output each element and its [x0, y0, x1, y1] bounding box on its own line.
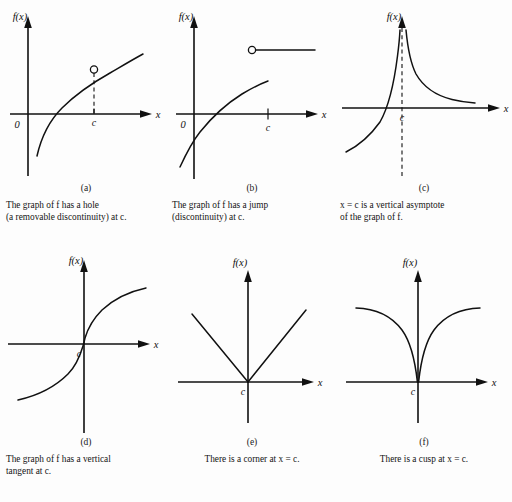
panel-letter-b: (b)	[172, 184, 332, 194]
panel-caption-d: The graph of f has a vertical tangent at…	[6, 453, 166, 478]
panel-b: f(x) 0 c x (b) The graph of f has a jump…	[172, 4, 332, 223]
panel-d: f(x) c x (d) The graph of f has a vertic…	[6, 248, 166, 477]
panel-f: f(x) c x (f) There is a cusp at x = c.	[340, 248, 508, 465]
x-axis-label: x	[153, 339, 159, 350]
c-label: c	[241, 386, 246, 397]
graph-a-removable-discontinuity: f(x) 0 c x	[6, 4, 166, 182]
graph-c-vertical-asymptote: f(x) c x	[340, 4, 508, 182]
panel-caption-b: The graph of f has a jump (discontinuity…	[172, 199, 332, 224]
x-axis-arrowhead	[488, 104, 500, 112]
y-axis-label: f(x)	[387, 11, 402, 23]
x-axis-label: x	[155, 109, 161, 120]
function-curve-right-branch	[419, 308, 480, 382]
function-curve-left-branch	[180, 81, 268, 167]
c-label: c	[92, 117, 97, 128]
function-ray-left	[192, 314, 248, 382]
panel-letter-f: (f)	[340, 438, 508, 448]
panel-letter-d: (d)	[6, 438, 166, 448]
c-label: c	[266, 122, 271, 133]
y-axis-label: f(x)	[69, 255, 84, 267]
panel-c: f(x) c x (c) x = c is a vertical asympto…	[340, 4, 508, 223]
open-circle-jump	[248, 46, 255, 53]
y-axis-arrowhead	[244, 270, 252, 282]
graph-d-vertical-tangent: f(x) c x	[6, 248, 166, 436]
panel-caption-c: x = c is a vertical asymptote of the gra…	[340, 199, 508, 224]
panel-letter-a: (a)	[6, 184, 166, 194]
x-axis-arrowhead	[140, 110, 152, 118]
panel-letter-c: (c)	[340, 184, 508, 194]
x-axis-arrowhead	[302, 378, 314, 386]
x-axis-arrowhead	[138, 340, 150, 348]
function-curve-right-branch	[406, 30, 475, 103]
figure-grid: f(x) 0 c x (a) The graph of f has a hole…	[0, 0, 512, 502]
c-label: c	[77, 348, 82, 359]
function-curve-left-branch	[346, 30, 400, 152]
panel-caption-e: There is a corner at x = c.	[172, 453, 332, 465]
function-ray-right	[248, 310, 306, 382]
panel-letter-e: (e)	[172, 438, 332, 448]
panel-e: f(x) c x (e) There is a corner at x = c.	[172, 248, 332, 465]
x-axis-label: x	[503, 103, 509, 114]
x-axis-arrowhead	[476, 378, 488, 386]
graph-e-corner: f(x) c x	[172, 248, 332, 436]
c-label: c	[411, 386, 416, 397]
panel-a: f(x) 0 c x (a) The graph of f has a hole…	[6, 4, 166, 223]
origin-label: 0	[14, 119, 20, 130]
panel-caption-f: There is a cusp at x = c.	[340, 453, 508, 465]
x-axis-label: x	[317, 377, 323, 388]
function-curve-left-branch	[356, 308, 417, 382]
y-axis-label: f(x)	[13, 11, 28, 23]
y-axis-arrowhead	[414, 270, 422, 282]
panel-caption-a: The graph of f has a hole (a removable d…	[6, 199, 166, 224]
y-axis-label: f(x)	[403, 257, 418, 269]
y-axis-label: f(x)	[233, 257, 248, 269]
open-circle-hole	[90, 66, 97, 73]
y-axis-label: f(x)	[179, 11, 194, 23]
x-axis-arrowhead	[306, 110, 318, 118]
graph-b-jump-discontinuity: f(x) 0 c x	[172, 4, 332, 182]
c-label: c	[400, 112, 405, 123]
x-axis-label: x	[321, 109, 327, 120]
origin-label: 0	[180, 119, 186, 130]
x-axis-label: x	[491, 377, 497, 388]
graph-f-cusp: f(x) c x	[340, 248, 508, 436]
